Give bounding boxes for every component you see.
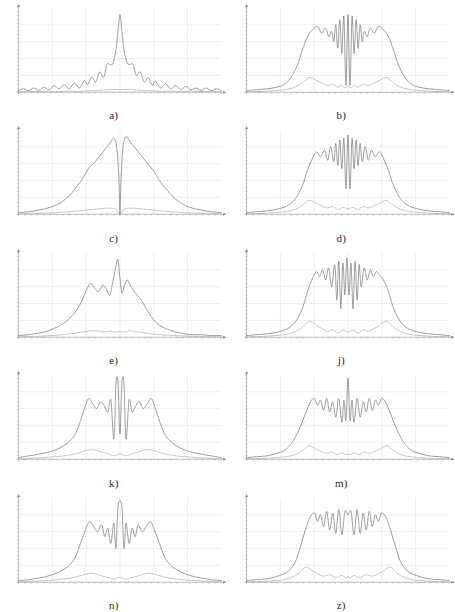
svg-text:·: · [436,95,437,97]
svg-text:·: · [56,95,57,97]
svg-text:·: · [334,340,335,342]
svg-text:·: · [170,95,171,97]
svg-text:·: · [44,95,45,97]
svg-text:·: · [145,95,146,97]
svg-text:·: · [94,218,95,220]
svg-text:·: · [423,95,424,97]
svg-text:·: · [56,218,57,220]
svg-text:·: · [120,463,121,465]
svg-text:·: · [423,585,424,587]
svg-text:·: · [271,218,272,220]
svg-text:·: · [145,585,146,587]
svg-text:·: · [44,340,45,342]
plot-area-m: ················· [228,369,455,471]
svg-text:·: · [448,218,449,220]
svg-text:·: · [296,218,297,220]
svg-text:·: · [196,463,197,465]
svg-text:·: · [271,340,272,342]
svg-text:·: · [284,463,285,465]
panel-label-d: d) [228,232,455,244]
panel-label-b: b) [228,109,455,121]
svg-text:·: · [410,585,411,587]
svg-text:·: · [183,95,184,97]
svg-text:·: · [208,95,209,97]
svg-text:·: · [448,95,449,97]
svg-text:·: · [18,463,19,465]
svg-text:·: · [44,218,45,220]
svg-text:·: · [221,463,222,465]
svg-text:·: · [360,585,361,587]
panel-d: ················· d) [228,122,455,244]
svg-text:·: · [69,340,70,342]
panel-a: ················· a) [0,0,228,122]
svg-text:·: · [44,585,45,587]
svg-text:·: · [246,218,247,220]
svg-text:·: · [360,463,361,465]
svg-text:·: · [94,95,95,97]
chart-svg-m: ················· [228,369,455,471]
svg-text:·: · [246,95,247,97]
svg-text:·: · [208,463,209,465]
svg-text:·: · [448,463,449,465]
svg-text:·: · [334,95,335,97]
svg-text:·: · [436,585,437,587]
svg-text:·: · [448,340,449,342]
svg-text:·: · [56,463,57,465]
svg-text:·: · [132,218,133,220]
svg-text:·: · [385,585,386,587]
panel-m: ················· m) [228,367,455,489]
svg-text:·: · [309,95,310,97]
svg-text:·: · [423,218,424,220]
svg-text:·: · [385,218,386,220]
svg-text:·: · [183,585,184,587]
svg-text:·: · [398,585,399,587]
svg-text:·: · [423,463,424,465]
panel-label-j: j) [228,354,455,366]
svg-text:·: · [18,585,19,587]
svg-text:·: · [170,585,171,587]
svg-text:·: · [258,340,259,342]
svg-text:·: · [82,585,83,587]
svg-text:·: · [284,585,285,587]
svg-text:·: · [410,463,411,465]
plot-area-c: ················· [0,124,228,226]
svg-text:·: · [208,585,209,587]
panel-c: ················· c) [0,122,228,244]
svg-text:·: · [145,463,146,465]
svg-text:·: · [82,218,83,220]
svg-text:·: · [221,218,222,220]
svg-text:·: · [360,340,361,342]
panel-k: ················· k) [0,367,228,489]
svg-text:·: · [347,218,348,220]
svg-text:·: · [221,95,222,97]
svg-text:·: · [18,95,19,97]
svg-text:·: · [94,463,95,465]
panel-label-k: k) [0,477,228,489]
svg-text:·: · [398,95,399,97]
svg-text:·: · [158,340,159,342]
svg-text:·: · [120,95,121,97]
svg-text:·: · [322,463,323,465]
svg-text:·: · [82,95,83,97]
svg-text:·: · [132,463,133,465]
svg-text:·: · [158,218,159,220]
svg-text:·: · [107,95,108,97]
svg-text:·: · [183,218,184,220]
chart-svg-n: ················· [0,492,228,594]
svg-text:·: · [69,218,70,220]
svg-text:·: · [334,585,335,587]
svg-text:·: · [94,585,95,587]
chart-svg-e: ················· [0,247,228,349]
svg-text:·: · [44,463,45,465]
svg-text:·: · [322,95,323,97]
svg-text:·: · [436,463,437,465]
svg-text:·: · [271,463,272,465]
svg-text:·: · [246,585,247,587]
panel-b: ················· b) [228,0,455,122]
svg-text:·: · [284,218,285,220]
panel-label-c: c) [0,232,228,244]
plot-area-j: ················· [228,247,455,349]
svg-text:·: · [410,340,411,342]
svg-text:·: · [69,585,70,587]
svg-text:·: · [296,585,297,587]
